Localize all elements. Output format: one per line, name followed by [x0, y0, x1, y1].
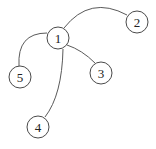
edge-1-3: [67, 45, 95, 63]
graph-diagram: 1 2 3 4 5: [0, 0, 156, 149]
node-3: 3: [90, 62, 112, 84]
edge-1-2: [64, 7, 127, 28]
edge-1-5: [19, 33, 47, 66]
node-2: 2: [126, 11, 148, 33]
edges: [19, 7, 127, 117]
node-2-label: 2: [134, 15, 141, 30]
node-3-label: 3: [98, 66, 105, 81]
edge-1-4: [45, 49, 63, 117]
node-4-label: 4: [35, 120, 42, 135]
node-5: 5: [9, 66, 31, 88]
node-4: 4: [27, 116, 49, 138]
node-1: 1: [47, 27, 69, 49]
node-5-label: 5: [17, 70, 24, 85]
node-1-label: 1: [55, 31, 62, 46]
